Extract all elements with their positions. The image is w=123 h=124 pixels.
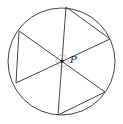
point-p-label: P xyxy=(70,55,77,65)
chord-a-b xyxy=(66,7,110,39)
point-p-dot xyxy=(60,59,63,62)
circle-chords-diagram xyxy=(0,0,123,124)
chord-f-e xyxy=(16,31,19,83)
